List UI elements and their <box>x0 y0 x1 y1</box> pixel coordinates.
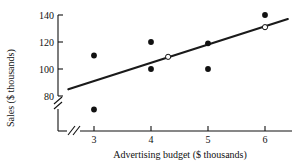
data-point-open <box>166 54 171 59</box>
x-axis-title: Advertising budget ($ thousands) <box>113 149 247 161</box>
x-tick-label-6: 6 <box>263 134 268 145</box>
data-point-open <box>262 25 267 30</box>
y-tick-label-140: 140 <box>39 10 54 21</box>
y-tick-label-100: 100 <box>39 64 54 75</box>
y-tick-label-80: 80 <box>44 91 54 102</box>
x-tick-label-4: 4 <box>149 134 154 145</box>
y-axis-title: Sales ($ thousands) <box>5 49 17 127</box>
data-point-filled <box>91 53 97 59</box>
data-point-filled <box>148 66 154 72</box>
y-tick-label-120: 120 <box>39 37 54 48</box>
data-point-filled <box>205 40 211 46</box>
x-tick-label-5: 5 <box>206 134 211 145</box>
data-point-filled <box>148 39 154 45</box>
data-point-filled <box>205 66 211 72</box>
data-point-filled <box>262 12 268 18</box>
x-tick-label-3: 3 <box>92 134 97 145</box>
chart-canvas: 140 120 100 80 Sales ($ thousands) <box>0 0 303 164</box>
data-point-filled <box>91 107 97 113</box>
scatter-plot-figure: 140 120 100 80 Sales ($ thousands) <box>0 0 303 164</box>
